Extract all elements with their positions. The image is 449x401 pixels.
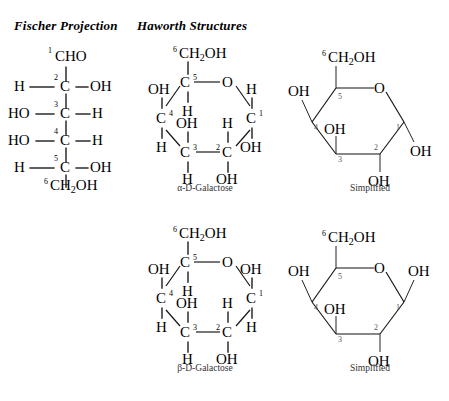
fischer-c5-label: C xyxy=(60,159,70,175)
fischer-c2-right-label: OH xyxy=(90,78,112,94)
haworth-beta-c2-h-label: H xyxy=(222,295,233,311)
caption-alpha-simplified: Simplified xyxy=(320,183,420,193)
fischer-c2-left-label: H xyxy=(14,78,25,94)
haworth-beta-c3-number: 3 xyxy=(193,323,197,332)
haworth-beta-c3-oh-label: OH xyxy=(176,295,198,311)
haworth-alpha-c1-number: 1 xyxy=(259,109,263,118)
fischer-c6-label: CH2OH xyxy=(50,177,98,195)
fischer-c1-number: 1 xyxy=(48,46,52,55)
simp-alpha-bond-c4-oh xyxy=(302,100,312,122)
simp-alpha-c6-number: 6 xyxy=(322,49,326,58)
header-haworth-structures: Haworth Structures xyxy=(137,18,247,34)
simplified-beta-structure: O 5 6 CH2OH 4 OH 3 OH 2 OH 1 OH xyxy=(288,218,438,363)
caption-beta-galactose: β-D-Galactose xyxy=(155,363,255,373)
simp-alpha-c4-number: 4 xyxy=(314,123,318,132)
simp-alpha-ring-o-c1 xyxy=(386,92,404,122)
fischer-c5-number: 5 xyxy=(54,154,58,163)
haworth-beta-c5-number: 5 xyxy=(193,253,197,262)
haworth-alpha-c5-label: C xyxy=(180,74,190,90)
fischer-c4-label: C xyxy=(60,132,70,148)
haworth-alpha-c1-oh-label: OH xyxy=(240,139,262,155)
haworth-alpha-c4-number: 4 xyxy=(169,109,173,118)
simp-alpha-ring-oxygen: O xyxy=(374,80,385,96)
fischer-c3-left-label: HO xyxy=(8,105,30,121)
simp-beta-ring-c4-c5 xyxy=(312,268,336,302)
haworth-alpha-c4-label: C xyxy=(156,110,166,126)
simp-alpha-c1-oh-label: OH xyxy=(410,143,432,159)
fischer-c3-label: C xyxy=(60,105,70,121)
haworth-alpha-c2-number: 2 xyxy=(216,143,220,152)
haworth-beta-c4-number: 4 xyxy=(169,289,173,298)
haworth-alpha-c1-h-label: H xyxy=(246,81,257,97)
haworth-alpha-c2-h-label: H xyxy=(222,115,233,131)
fischer-projection-structure: 6 1 CHO H 2 C OH HO 3 C H HO 4 C H H xyxy=(8,40,128,190)
haworth-beta-c3-label: C xyxy=(180,324,190,340)
simp-beta-bond-c1-oh xyxy=(404,280,414,302)
caption-beta-simplified: Simplified xyxy=(320,363,420,373)
haworth-beta-c4-label: C xyxy=(156,290,166,306)
haworth-alpha-c4-oh-label: OH xyxy=(148,81,170,97)
simp-alpha-ring-c1-c2 xyxy=(380,122,404,154)
haworth-alpha-c6-number: 6 xyxy=(173,45,177,54)
simp-beta-c1-oh-label: OH xyxy=(408,263,430,279)
header-fischer-projection: Fischer Projection xyxy=(14,18,118,34)
haworth-alpha-c5-number: 5 xyxy=(193,73,197,82)
fischer-c2-label: C xyxy=(60,78,70,94)
simp-beta-c6-label: CH2OH xyxy=(328,229,376,247)
haworth-beta-c4-oh-label: OH xyxy=(148,261,170,277)
haworth-alpha-c2-label: C xyxy=(222,144,232,160)
simp-beta-c1-number: 1 xyxy=(396,303,400,312)
haworth-beta-c5-label: C xyxy=(180,254,190,270)
simp-beta-c3-oh-label: OH xyxy=(324,301,346,317)
ring-bond-c3-c4 xyxy=(166,130,180,146)
simp-beta-c3-number: 3 xyxy=(338,335,342,344)
beta-ring-bond-c3-c4 xyxy=(166,310,180,326)
simp-alpha-c6-label: CH2OH xyxy=(328,49,376,67)
haworth-alpha-c3-label: C xyxy=(180,144,190,160)
haworth-beta-c2-number: 2 xyxy=(216,323,220,332)
fischer-c4-number: 4 xyxy=(54,127,58,136)
simp-alpha-c2-number: 2 xyxy=(374,143,378,152)
simp-alpha-c5-number: 5 xyxy=(338,92,342,101)
haworth-beta-c1-number: 1 xyxy=(259,289,263,298)
simp-beta-c5-number: 5 xyxy=(338,272,342,281)
simp-beta-c4-number: 4 xyxy=(314,303,318,312)
haworth-beta-c2-label: C xyxy=(222,324,232,340)
diagram-canvas: Fischer Projection Haworth Structures 6 … xyxy=(0,0,449,401)
fischer-c6-number: 6 xyxy=(44,177,48,186)
haworth-alpha-c4-h-label: H xyxy=(156,139,167,155)
simp-beta-bond-c4-oh xyxy=(302,280,312,302)
simp-beta-ring-o-c1 xyxy=(386,272,404,302)
simp-alpha-c1-number: 1 xyxy=(396,123,400,132)
simp-alpha-c4-oh-label: OH xyxy=(288,83,310,99)
fischer-c4-right-label: H xyxy=(92,132,103,148)
simp-alpha-ring-c4-c5 xyxy=(312,88,336,122)
haworth-beta-c1-h-label: H xyxy=(246,319,257,335)
fischer-c3-number: 3 xyxy=(54,100,58,109)
haworth-alpha-c3-number: 3 xyxy=(193,143,197,152)
haworth-alpha-ring-oxygen: O xyxy=(222,74,233,90)
fischer-c5-right-label: OH xyxy=(90,159,112,175)
simp-alpha-c3-number: 3 xyxy=(338,155,342,164)
simp-alpha-c3-oh-label: OH xyxy=(324,121,346,137)
haworth-alpha-c1-label: C xyxy=(246,110,256,126)
haworth-beta-c1-label: C xyxy=(246,290,256,306)
haworth-beta-c6-number: 6 xyxy=(173,225,177,234)
haworth-beta-c1-oh-label: OH xyxy=(240,261,262,277)
haworth-beta-c4-h-label: H xyxy=(156,319,167,335)
fischer-c1-label: CHO xyxy=(55,48,87,64)
haworth-alpha-structure: C 5 6 CH2OH H O C 4 OH H C 1 H OH C xyxy=(128,38,278,183)
simplified-alpha-structure: O 5 6 CH2OH 4 OH 3 OH 2 OH 1 OH xyxy=(288,38,438,183)
fischer-c3-right-label: H xyxy=(92,105,103,121)
haworth-beta-structure: C 5 6 CH2OH H O C 4 OH H C 1 OH H C 3 xyxy=(128,218,278,363)
fischer-c2-number: 2 xyxy=(54,73,58,82)
haworth-beta-c6-label: CH2OH xyxy=(179,225,227,243)
simp-beta-c4-oh-label: OH xyxy=(288,263,310,279)
fischer-c5-left-label: H xyxy=(14,159,25,175)
haworth-alpha-c3-oh-label: OH xyxy=(176,115,198,131)
simp-beta-ring-oxygen: O xyxy=(374,260,385,276)
haworth-alpha-c6-label: CH2OH xyxy=(179,45,227,63)
simp-beta-ring-c1-c2 xyxy=(380,302,404,334)
simp-beta-c6-number: 6 xyxy=(322,229,326,238)
simp-beta-c2-number: 2 xyxy=(374,323,378,332)
